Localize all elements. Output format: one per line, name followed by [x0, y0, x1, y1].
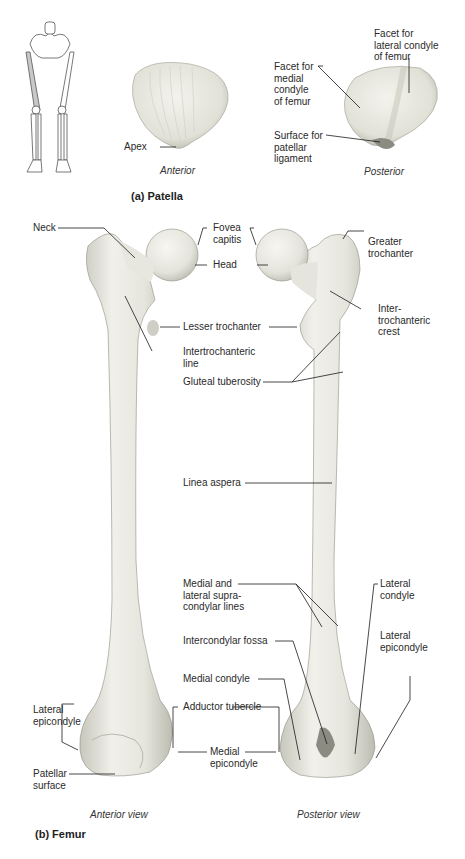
label-patellar-surface: Patellar surface	[33, 768, 67, 791]
caption-femur-anterior: Anterior view	[90, 809, 148, 820]
label-intercondylar-fossa: Intercondylar fossa	[183, 635, 268, 647]
label-lesser-trochanter: Lesser trochanter	[183, 321, 261, 333]
label-surface-patellar-ligament: Surface for patellar ligament	[274, 130, 323, 165]
label-intertrochanteric-line: Intertrochanteric line	[183, 346, 255, 369]
label-facet-medial-condyle: Facet for medial condyle of femur	[274, 61, 313, 107]
patella-anterior	[132, 62, 228, 148]
label-apex: Apex	[124, 141, 147, 153]
caption-femur-posterior: Posterior view	[297, 809, 360, 820]
label-linea-aspera: Linea aspera	[183, 477, 241, 489]
femur-anterior-head	[146, 229, 198, 281]
label-facet-lateral-condyle: Facet for lateral condyle of femur	[374, 28, 438, 63]
skeleton-locator-icon	[26, 22, 74, 172]
caption-patella-posterior: Posterior	[364, 166, 404, 177]
label-neck: Neck	[33, 222, 56, 234]
label-lateral-epicondyle-posterior: Lateral epicondyle	[380, 630, 428, 653]
caption-patella-anterior: Anterior	[160, 165, 195, 176]
label-lateral-epicondyle-anterior: Lateral epicondyle	[33, 704, 81, 727]
label-intertrochanteric-crest: Inter- trochanteric crest	[378, 303, 430, 338]
label-gluteal-tuberosity: Gluteal tuberosity	[183, 376, 261, 388]
femur-anterior	[80, 234, 173, 776]
label-supracondylar-lines: Medial and lateral supra- condylar lines	[183, 578, 244, 613]
femur-posterior	[280, 234, 375, 777]
label-medial-condyle: Medial condyle	[183, 673, 250, 685]
label-adductor-tubercle: Adductor tubercle	[183, 701, 261, 713]
label-head: Head	[213, 259, 237, 271]
label-fovea-capitis: Fovea capitis	[213, 222, 241, 245]
label-greater-trochanter: Greater trochanter	[368, 236, 413, 259]
title-femur: (b) Femur	[35, 828, 86, 840]
anatomy-illustration	[0, 0, 465, 859]
label-lateral-condyle: Lateral condyle	[380, 578, 414, 601]
title-patella: (a) Patella	[131, 190, 183, 202]
label-medial-epicondyle: Medial epicondyle	[210, 746, 258, 769]
